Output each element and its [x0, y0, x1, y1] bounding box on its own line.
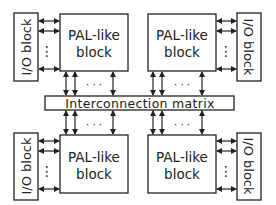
- pal-matrix-arrows-top-right: · · ·: [153, 72, 202, 95]
- pal-label-line1: PAL-like: [68, 149, 120, 165]
- vertical-ellipsis: ⋮: [219, 43, 233, 59]
- horizontal-ellipsis: · · ·: [174, 119, 190, 130]
- pal-label-line2: block: [76, 166, 112, 182]
- io-block-top-right: I/O block: [237, 13, 261, 81]
- io-label: I/O block: [241, 137, 256, 195]
- pal-label-line1: PAL-like: [156, 149, 208, 165]
- pal-block-top-left: PAL-like block: [60, 14, 128, 71]
- io-block-top-left: I/O block: [14, 13, 38, 81]
- pal-label-line2: block: [164, 166, 200, 182]
- cpld-architecture-diagram: I/O block PAL-like block ⋮ · · · PAL-lik…: [0, 0, 276, 205]
- pal-block-bottom-left: PAL-like block: [60, 135, 128, 193]
- io-label: I/O block: [241, 18, 256, 76]
- io-block-bottom-right: I/O block: [237, 133, 261, 200]
- io-label: I/O block: [19, 18, 34, 76]
- io-label: I/O block: [19, 137, 34, 195]
- pal-label-line2: block: [164, 44, 200, 60]
- vertical-ellipsis: ⋮: [219, 163, 233, 179]
- interconnection-matrix: Interconnection matrix: [45, 96, 234, 111]
- io-pal-arrows-top-left: ⋮: [39, 21, 59, 69]
- io-block-bottom-left: I/O block: [14, 133, 38, 200]
- interconnect-label: Interconnection matrix: [65, 96, 214, 111]
- pal-matrix-arrows-top-left: · · ·: [66, 72, 113, 95]
- vertical-ellipsis: ⋮: [40, 163, 54, 179]
- pal-label-line1: PAL-like: [68, 27, 120, 43]
- io-pal-arrows-top-right: ⋮: [217, 21, 236, 69]
- pal-matrix-arrows-bottom-left: · · ·: [66, 111, 113, 134]
- horizontal-ellipsis: · · ·: [174, 79, 190, 90]
- pal-label-line2: block: [76, 44, 112, 60]
- horizontal-ellipsis: · · ·: [86, 119, 102, 130]
- pal-block-bottom-right: PAL-like block: [148, 135, 216, 193]
- horizontal-ellipsis: · · ·: [86, 79, 102, 90]
- pal-matrix-arrows-bottom-right: · · ·: [153, 111, 202, 134]
- vertical-ellipsis: ⋮: [40, 43, 54, 59]
- pal-label-line1: PAL-like: [156, 27, 208, 43]
- io-pal-arrows-bottom-right: ⋮: [217, 141, 236, 189]
- pal-block-top-right: PAL-like block: [148, 14, 216, 71]
- io-pal-arrows-bottom-left: ⋮: [39, 141, 59, 189]
